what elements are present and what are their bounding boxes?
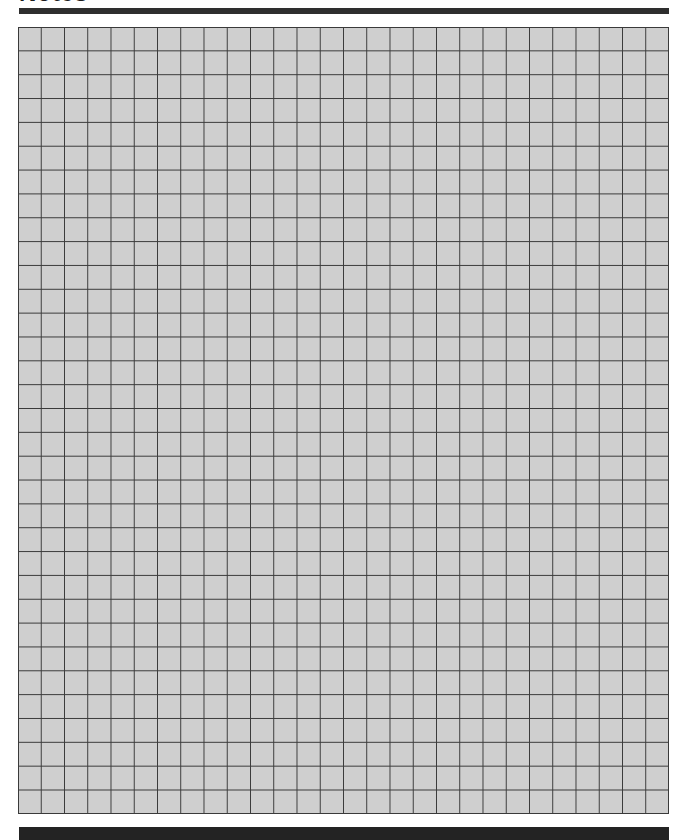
page-title: Notes: [19, 0, 88, 3]
footer-bar: [19, 827, 669, 840]
notes-grid-area: [18, 27, 669, 814]
title-rule-divider: [19, 8, 669, 14]
